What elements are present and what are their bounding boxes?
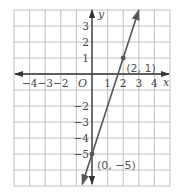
y-tick-label: −4 — [74, 132, 90, 144]
coordinate-plane-chart: xy −4−3−21234321−2−3−4−5O (2, 1)(0, −5) — [0, 0, 179, 194]
y-tick-label: −2 — [74, 100, 89, 112]
x-tick-label: 3 — [135, 77, 142, 89]
x-tick-label: 1 — [104, 77, 111, 89]
y-tick-label: 2 — [82, 36, 89, 48]
point-marker — [121, 56, 126, 61]
axes: xy — [15, 8, 170, 184]
origin-label: O — [78, 77, 87, 90]
x-tick-label: 2 — [120, 77, 127, 89]
x-tick-label: −4 — [22, 77, 38, 89]
x-tick-label: −2 — [53, 77, 68, 89]
y-axis-label: y — [97, 8, 105, 21]
point-label: (2, 1) — [126, 62, 156, 75]
x-tick-label: −3 — [37, 77, 52, 89]
x-tick-label: 4 — [151, 77, 158, 89]
point-marker — [90, 152, 95, 157]
y-tick-label: −3 — [74, 116, 89, 128]
labeled-points: (2, 1)(0, −5) — [90, 56, 156, 172]
x-axis-label: x — [163, 76, 170, 89]
y-tick-label: 3 — [82, 20, 89, 32]
y-tick-label: 1 — [82, 52, 89, 64]
y-tick-label: −5 — [74, 148, 89, 160]
point-label: (0, −5) — [97, 159, 136, 172]
